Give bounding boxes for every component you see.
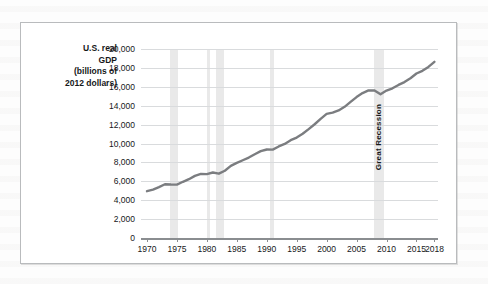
figure-container: U.S. real GDP (billions of 2012 dollars)… (20, 22, 457, 264)
gdp-line-series (147, 62, 434, 191)
y-axis-tick-label: 8,000 (83, 157, 135, 167)
x-axis-tick (207, 238, 208, 242)
x-axis-tick-label: 1970 (138, 244, 157, 254)
y-axis-tick-label: 20,000 (83, 44, 135, 54)
y-axis-tick-label: 2,000 (83, 214, 135, 224)
x-axis-tick-label: 2015 (407, 244, 426, 254)
x-axis-tick (147, 238, 148, 242)
x-axis-tick (267, 238, 268, 242)
x-axis-tick-label: 2000 (317, 244, 336, 254)
x-axis-tick-label: 2018 (425, 244, 444, 254)
great-recession-annotation: Great Recession (374, 104, 383, 170)
x-axis-tick (297, 238, 298, 242)
x-axis-tick-label: 1990 (257, 244, 276, 254)
page-background: U.S. real GDP (billions of 2012 dollars)… (0, 0, 488, 284)
y-axis-tick-label: 14,000 (83, 101, 135, 111)
x-axis-tick (387, 238, 388, 242)
x-axis-tick-label: 1985 (227, 244, 246, 254)
y-axis-tick-label: 10,000 (83, 139, 135, 149)
y-axis-tick-label: 16,000 (83, 82, 135, 92)
x-axis-tick (327, 238, 328, 242)
y-axis-tick-label: 18,000 (83, 63, 135, 73)
x-axis-tick (357, 238, 358, 242)
gdp-line-chart (141, 49, 438, 238)
x-axis-tick (177, 238, 178, 242)
y-axis-tick-labels: 20,00018,00016,00014,00012,00010,0008,00… (83, 49, 135, 238)
x-axis-tick-label: 1975 (167, 244, 186, 254)
plot-area: Great Recession (141, 49, 438, 238)
x-axis-tick (416, 238, 417, 242)
x-axis-tick-label: 1980 (197, 244, 216, 254)
x-axis-tick (237, 238, 238, 242)
x-axis-tick-label: 1995 (287, 244, 306, 254)
y-axis-tick-label: 12,000 (83, 120, 135, 130)
x-axis-tick-label: 2010 (377, 244, 396, 254)
x-axis-line (141, 238, 438, 240)
y-axis-tick-label: 4,000 (83, 195, 135, 205)
x-axis-tick-label: 2005 (347, 244, 366, 254)
y-axis-tick-label: 0 (83, 233, 135, 243)
y-axis-tick-label: 6,000 (83, 176, 135, 186)
x-axis-tick (434, 238, 435, 242)
